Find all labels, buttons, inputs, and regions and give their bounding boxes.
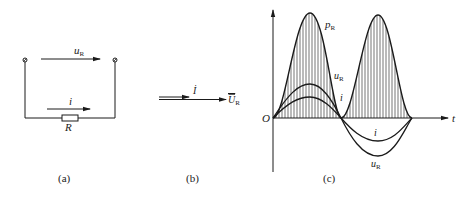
- current-phasor-label: İ: [192, 85, 197, 96]
- current-label: i: [69, 95, 72, 107]
- caption-c: (c): [323, 172, 336, 185]
- diagram-canvas: uR i R (a) İ UR (b): [0, 0, 472, 198]
- voltage-phasor-label: UR: [228, 94, 240, 107]
- voltage-label-upper: uR: [334, 70, 344, 83]
- resistor-label: R: [64, 121, 72, 133]
- caption-b: (b): [186, 172, 199, 185]
- waveform-chart: O t pR uR i i uR (c): [262, 0, 456, 185]
- caption-a: (a): [58, 172, 71, 185]
- left-wire: [25, 62, 62, 118]
- right-wire: [78, 62, 115, 118]
- origin-label: O: [262, 112, 270, 124]
- circuit-diagram: uR i R (a): [23, 44, 117, 185]
- power-label: pR: [324, 18, 336, 32]
- phasor-diagram: İ UR (b): [159, 85, 240, 185]
- current-label-upper: i: [340, 92, 343, 103]
- voltage-label: uR: [74, 44, 85, 58]
- voltage-label-lower: uR: [371, 158, 381, 171]
- t-axis-label: t: [452, 112, 456, 124]
- current-label-lower: i: [374, 127, 377, 138]
